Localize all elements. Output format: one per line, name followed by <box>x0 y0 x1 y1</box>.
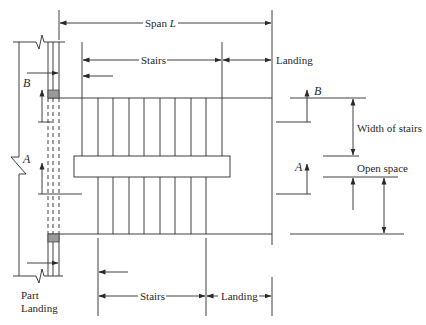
stairs-top-label: Stairs <box>140 54 167 66</box>
landing-top-label: Landing <box>275 54 314 66</box>
width-of-stairs-label: Width of stairs <box>356 122 423 134</box>
bottom-flight-risers <box>98 177 206 234</box>
top-stairs-dimension <box>82 42 271 98</box>
section-arrows-left <box>38 90 82 194</box>
central-landing-rect <box>74 156 230 177</box>
section-a-right-label: A <box>294 161 303 173</box>
landing-bottom-label: Landing <box>220 290 259 302</box>
section-b-right-label: B <box>313 85 322 97</box>
top-flight-risers <box>82 98 222 156</box>
bearing-block-top <box>48 90 59 98</box>
bottom-stairs-dimension <box>98 238 272 316</box>
stair-plan-diagram: Span L Stairs Landing B A B A Width of s… <box>0 0 426 325</box>
span-dimension <box>59 10 272 245</box>
span-label: Span L <box>144 17 177 29</box>
part-landing-label-line1: Part <box>20 289 40 301</box>
left-wall-section <box>11 35 65 283</box>
part-landing-label-line2: Landing <box>20 302 59 314</box>
open-space-label: Open space <box>356 162 409 174</box>
section-a-left-label: A <box>22 153 31 165</box>
bearing-block-bottom <box>48 234 59 242</box>
span-symbol: L <box>170 17 176 29</box>
stairs-bottom-label: Stairs <box>139 290 166 302</box>
section-b-left-label: B <box>22 77 31 89</box>
span-text: Span <box>145 17 167 29</box>
